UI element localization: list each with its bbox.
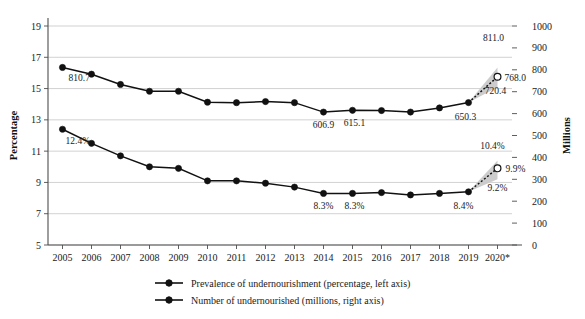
data-point-label: 10.4% (480, 141, 505, 151)
x-axis-tick-label: 2010 (198, 252, 218, 263)
data-point-marker (465, 99, 471, 105)
x-axis-tick-label: 2012 (256, 252, 276, 263)
data-point-label: 810.7 (69, 73, 91, 83)
data-point-marker (378, 189, 384, 195)
data-point-label: 8.4% (454, 201, 474, 211)
data-point-label: 9.2% (488, 183, 508, 193)
x-axis-tick-label: 2008 (140, 252, 160, 263)
legend-item-label: Prevalence of undernourishment (percenta… (191, 278, 410, 290)
data-point-label: 768.0 (505, 73, 527, 83)
legend-item-label: Number of undernourished (millions, righ… (191, 295, 384, 307)
data-point-marker (291, 184, 297, 190)
data-point-marker (59, 126, 65, 132)
chart-background (0, 0, 585, 319)
x-axis-tick-label: 2017 (401, 252, 421, 263)
left-axis-tick-label: 17 (31, 52, 41, 63)
data-point-marker (349, 107, 355, 113)
data-point-label: 615.1 (344, 118, 366, 128)
data-point-marker (262, 98, 268, 104)
x-axis-tick-label: 2011 (227, 252, 247, 263)
projection-point-marker (494, 165, 501, 172)
data-point-marker (146, 88, 152, 94)
x-axis-tick-label: 2016 (372, 252, 392, 263)
data-point-label: 811.0 (483, 33, 504, 43)
data-point-marker (175, 165, 181, 171)
data-point-marker (146, 164, 152, 170)
right-axis-tick-label: 800 (532, 64, 547, 75)
data-point-marker (465, 189, 471, 195)
data-point-label: 12.4% (66, 136, 91, 146)
right-axis-tick-label: 600 (532, 108, 547, 119)
data-point-marker (233, 100, 239, 106)
x-axis-tick-label: 2006 (82, 252, 102, 263)
left-axis-tick-label: 7 (36, 208, 41, 219)
x-axis-tick-label: 2014 (314, 252, 334, 263)
data-point-label: 8.3% (314, 201, 334, 211)
data-point-marker (59, 64, 65, 70)
legend-marker-swatch (166, 280, 172, 286)
data-point-label: 650.3 (455, 112, 477, 122)
left-axis-tick-label: 9 (36, 177, 41, 188)
data-point-marker (291, 100, 297, 106)
left-axis-tick-label: 11 (31, 146, 41, 157)
undernourishment-line-chart: 5791113151719 01002003004005006007008009… (0, 0, 585, 319)
right-axis-tick-label: 300 (532, 174, 547, 185)
data-point-label: 720.4 (485, 86, 507, 96)
data-point-label: 8.3% (345, 201, 365, 211)
data-point-marker (175, 88, 181, 94)
right-axis-tick-label: 700 (532, 86, 547, 97)
left-axis-tick-label: 19 (31, 21, 41, 32)
left-axis-tick-label: 5 (36, 240, 41, 251)
x-axis-tick-label: 2015 (343, 252, 363, 263)
right-axis-tick-label: 0 (532, 240, 537, 251)
x-axis-tick-label: 2005 (53, 252, 73, 263)
chart-container: 5791113151719 01002003004005006007008009… (0, 0, 585, 319)
data-point-label: 606.9 (313, 120, 335, 130)
data-point-marker (436, 105, 442, 111)
x-axis-tick-label: 2009 (169, 252, 189, 263)
right-axis-title: Millions (561, 117, 572, 154)
data-point-label: 9.9% (506, 164, 526, 174)
data-point-marker (117, 153, 123, 159)
left-axis-tick-label: 13 (31, 114, 41, 125)
data-point-marker (204, 178, 210, 184)
right-axis-tick-label: 200 (532, 196, 547, 207)
right-axis-tick-label: 100 (532, 218, 547, 229)
data-point-marker (436, 190, 442, 196)
x-axis-tick-label: 2020* (485, 252, 510, 263)
legend-marker-swatch (166, 297, 172, 303)
left-axis-title: Percentage (8, 110, 19, 160)
data-point-marker (407, 192, 413, 198)
data-point-marker (320, 109, 326, 115)
x-axis-tick-label: 2007 (111, 252, 131, 263)
right-axis-tick-label: 900 (532, 42, 547, 53)
data-point-marker (349, 190, 355, 196)
data-point-marker (320, 190, 326, 196)
data-point-marker (204, 99, 210, 105)
projection-point-marker (494, 73, 501, 80)
x-axis-tick-label: 2013 (285, 252, 305, 263)
data-point-marker (117, 81, 123, 87)
right-axis-tick-label: 1000 (532, 21, 552, 32)
x-axis-tick-label: 2019 (459, 252, 479, 263)
data-point-marker (262, 180, 268, 186)
right-axis-tick-label: 500 (532, 130, 547, 141)
right-axis-tick-label: 400 (532, 152, 547, 163)
data-point-marker (407, 109, 413, 115)
left-axis-tick-label: 15 (31, 83, 41, 94)
x-axis-tick-label: 2018 (430, 252, 450, 263)
data-point-marker (233, 178, 239, 184)
data-point-marker (378, 107, 384, 113)
